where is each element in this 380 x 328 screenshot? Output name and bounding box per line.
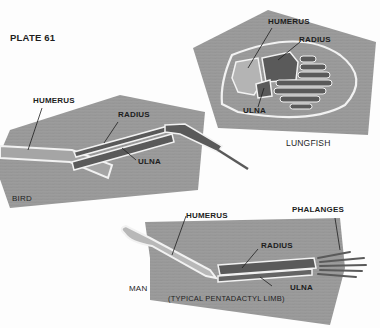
- man-radius-label: RADIUS: [261, 241, 293, 250]
- lungfish-radius-label: RADIUS: [299, 35, 331, 44]
- bird-ulna-label: ULNA: [138, 157, 161, 166]
- man-humerus-label: HUMERUS: [186, 211, 228, 220]
- man-caption: (TYPICAL PENTADACTYL LIMB): [168, 294, 285, 303]
- bird-digit-bone: [218, 150, 248, 169]
- man-phalanges-label: PHALANGES: [292, 205, 344, 214]
- lungfish-title: LUNGFISH: [286, 138, 331, 148]
- lungfish-fin: [193, 10, 376, 135]
- bird-title: BIRD: [12, 194, 32, 203]
- man-ulna-label: ULNA: [290, 283, 313, 292]
- man-title: MAN: [129, 284, 147, 293]
- human-arm: [122, 216, 366, 325]
- bird-humerus-label: HUMERUS: [33, 96, 75, 105]
- lungfish-radius-bone: [262, 52, 298, 82]
- plate-title: PLATE 61: [10, 32, 55, 43]
- bird-radius-label: RADIUS: [118, 110, 150, 119]
- plate-61-diagram: PLATE 61 HUMERUS RADIUS ULNA LUNGFISH HU…: [0, 0, 380, 328]
- lungfish-humerus-label: HUMERUS: [268, 17, 310, 26]
- lungfish-ulna-label: ULNA: [243, 106, 266, 115]
- limb-illustrations: [0, 0, 380, 328]
